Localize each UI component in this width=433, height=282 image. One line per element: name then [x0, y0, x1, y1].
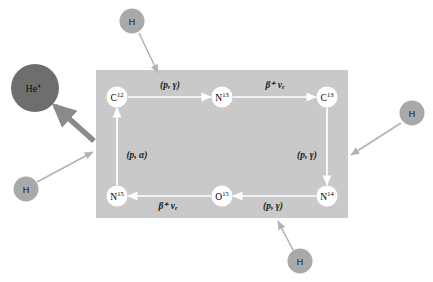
node-n14: N14 — [317, 186, 338, 207]
node-c13-mass: 13 — [327, 91, 334, 98]
node-n15-mass: 15 — [117, 190, 124, 197]
input-arrow-h-right — [351, 123, 401, 155]
node-n13: N13 — [212, 87, 233, 108]
hydrogen-node-h-right: H — [400, 101, 425, 126]
hydrogen-label-h-left: H — [23, 185, 30, 195]
node-c12-mass: 12 — [117, 91, 124, 98]
node-c13: C13 — [317, 87, 338, 108]
reaction-label-n15-c12: (p, α) — [126, 150, 147, 161]
helium-output-arrow — [55, 106, 94, 141]
cno-cycle-diagram: C12 N13 C13 N14 O15 — [0, 0, 433, 282]
input-arrow-h-bottom — [278, 221, 293, 250]
node-o15-mass: 15 — [222, 190, 229, 197]
hydrogen-node-h-left: H — [14, 177, 39, 202]
reaction-label-o15-n15: β⁺ νₑ — [157, 201, 177, 211]
hydrogen-label-h-right: H — [409, 109, 416, 119]
diagram-canvas: C12 N13 C13 N14 O15 — [0, 0, 433, 282]
input-arrow-h-top — [139, 33, 158, 73]
helium-element: He — [26, 83, 38, 94]
node-n13-mass: 13 — [222, 91, 229, 98]
node-o15: O15 — [212, 186, 233, 207]
reaction-label-n14-o15: (p, γ) — [263, 201, 283, 212]
hydrogen-node-h-bottom: H — [288, 249, 313, 274]
helium-node-he4: He4 — [11, 64, 59, 112]
node-n14-mass: 14 — [327, 190, 334, 197]
input-arrow-h-left — [37, 152, 93, 182]
node-n15: N15 — [107, 186, 128, 207]
hydrogen-node-h-top: H — [120, 9, 145, 34]
hydrogen-label-h-bottom: H — [297, 257, 304, 267]
node-c12: C12 — [107, 87, 128, 108]
reaction-label-c12-n13: (p, γ) — [160, 80, 180, 91]
hydrogen-label-h-top: H — [129, 17, 136, 27]
reaction-label-n13-c13: β⁺ νₑ — [264, 80, 284, 90]
reaction-label-c13-n14: (p, γ) — [297, 150, 317, 161]
